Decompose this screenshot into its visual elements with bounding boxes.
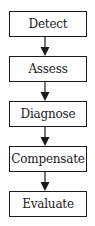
step-label: Assess: [28, 62, 67, 76]
arrow-down-icon: [40, 37, 50, 56]
step-evaluate: Evaluate: [9, 191, 87, 217]
arrow-down-icon: [40, 82, 50, 101]
step-detect: Detect: [9, 11, 87, 37]
step-label: Evaluate: [22, 197, 74, 211]
step-label: Compensate: [11, 152, 85, 166]
step-assess: Assess: [9, 56, 87, 82]
arrow-down-icon: [40, 127, 50, 146]
arrow-down-icon: [40, 172, 50, 191]
step-diagnose: Diagnose: [9, 101, 87, 127]
step-label: Diagnose: [21, 107, 76, 121]
step-label: Detect: [29, 17, 68, 31]
step-compensate: Compensate: [9, 146, 87, 172]
